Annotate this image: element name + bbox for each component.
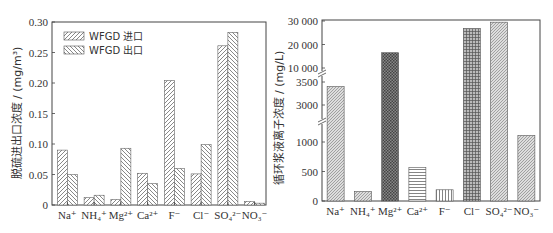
x-tick-label: Na⁺ [58, 209, 77, 221]
y-tick-label: 0.10 [29, 138, 49, 150]
bar [382, 53, 399, 201]
bar [121, 148, 131, 205]
y-tick-label: 500 [302, 166, 319, 178]
right-y-axis: 050010003000350010 00020 00030 000 [288, 15, 326, 207]
bar [228, 32, 238, 205]
y-tick-label: 0.05 [29, 169, 49, 181]
bar [436, 190, 453, 201]
y-tick-label: 0 [313, 195, 319, 207]
x-tick-label: F⁻ [168, 209, 180, 221]
right-bars [327, 22, 535, 201]
bar [148, 184, 158, 205]
legend-label-outlet: WFGD 出口 [89, 44, 143, 56]
x-tick-label: Cl⁻ [193, 209, 209, 221]
bar [138, 173, 148, 205]
y-tick-label: 1000 [296, 136, 319, 148]
y-tick-label: 30 000 [288, 15, 319, 27]
bar [84, 198, 94, 205]
bar [174, 168, 184, 205]
y-tick-label: 10 000 [288, 62, 319, 74]
y-tick-label: 0.20 [29, 77, 49, 89]
legend-label-inlet: WFGD 进口 [89, 31, 143, 42]
x-tick-label: Mg²⁺ [378, 205, 403, 217]
left-chart: 00.050.100.150.200.250.30 Na⁺NH₄⁺Mg²⁺Ca²… [10, 16, 268, 221]
y-tick-label: 3000 [296, 99, 319, 111]
x-tick-label: SO₄²⁻ [486, 205, 513, 217]
y-tick-label: 0.30 [29, 16, 49, 28]
right-y-axis-label: 循环浆液离子浓度 / (mg/L) [272, 51, 286, 186]
bar [354, 192, 371, 201]
bar [518, 136, 535, 201]
x-tick-label: SO₄²⁻ [214, 209, 241, 221]
y-tick-label: 20 000 [288, 39, 319, 51]
bar [255, 203, 265, 205]
bar [218, 46, 228, 205]
left-bars [57, 32, 264, 205]
bar [164, 81, 174, 205]
x-tick-label: NH₄⁺ [350, 205, 376, 217]
bar [327, 87, 344, 201]
bar [111, 200, 121, 205]
bar [491, 22, 508, 201]
x-tick-label: Na⁺ [326, 205, 345, 217]
x-tick-label: NO₃⁻ [514, 205, 540, 217]
bar [201, 145, 211, 205]
x-tick-label: Ca²⁺ [137, 209, 159, 221]
bar [245, 201, 255, 205]
right-chart: 050010003000350010 00020 00030 000 Na⁺NH… [272, 15, 540, 217]
x-tick-label: NO₃⁻ [242, 209, 268, 221]
bar [191, 174, 201, 205]
bar [94, 195, 104, 205]
x-tick-label: Mg²⁺ [109, 209, 134, 221]
x-tick-label: Ca²⁺ [407, 205, 429, 217]
bar [409, 167, 426, 201]
y-tick-label: 0.25 [29, 47, 49, 59]
legend-swatch-outlet [64, 46, 84, 54]
left-legend: WFGD 进口 WFGD 出口 [64, 31, 143, 56]
x-tick-label: F⁻ [439, 205, 451, 217]
figure: 00.050.100.150.200.250.30 Na⁺NH₄⁺Mg²⁺Ca²… [0, 0, 553, 233]
x-tick-label: Cl⁻ [464, 205, 480, 217]
y-tick-label: 0 [43, 199, 49, 211]
right-x-axis: Na⁺NH₄⁺Mg²⁺Ca²⁺F⁻Cl⁻SO₄²⁻NO₃⁻ [326, 205, 539, 217]
y-tick-label: 3500 [296, 76, 319, 88]
bar [463, 29, 480, 201]
x-tick-label: NH₄⁺ [81, 209, 107, 221]
bar [57, 150, 67, 205]
y-tick-label: 0.15 [29, 108, 49, 120]
left-y-axis-label: 脱硫进出口浓度 / (mg/m³) [10, 47, 24, 180]
left-y-axis: 00.050.100.150.200.250.30 [29, 16, 55, 211]
legend-swatch-inlet [64, 32, 84, 40]
bar [67, 175, 77, 206]
